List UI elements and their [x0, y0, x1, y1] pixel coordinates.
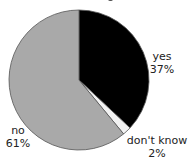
label-yes-name: yes [148, 50, 176, 63]
label-no: no 61% [4, 124, 32, 150]
label-dont-know-value: 2% [124, 147, 190, 160]
label-yes: yes 37% [148, 50, 176, 76]
label-no-name: no [4, 124, 32, 137]
label-dont-know-name: don't know [124, 134, 190, 147]
label-yes-value: 37% [148, 63, 176, 76]
label-dont-know: don't know 2% [124, 134, 190, 160]
label-no-value: 61% [4, 137, 32, 150]
